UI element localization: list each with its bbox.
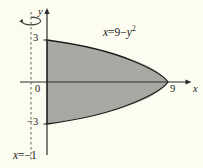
parabolic-region-figure: y x 3 0 −3 9 x=9−y2 x=−1: [0, 0, 203, 168]
revolution-arrow-icon: [19, 17, 41, 25]
y-axis-arrowhead: [44, 8, 49, 14]
curve-equation-label: x=9−y2: [103, 27, 136, 39]
x-intercept-label-9: 9: [170, 84, 175, 95]
curve-equation-exponent: 2: [132, 24, 136, 33]
y-tick-label-3: 3: [33, 33, 38, 44]
x-axis-label: x: [193, 84, 198, 95]
axis-of-revolution-value: −1: [25, 149, 37, 161]
y-tick-label-negative-3: −3: [27, 117, 38, 128]
origin-label: 0: [35, 84, 40, 95]
axis-of-revolution-label: x=−1: [13, 150, 37, 162]
y-axis-label: y: [38, 7, 43, 18]
x-axis-arrowhead: [186, 79, 192, 84]
